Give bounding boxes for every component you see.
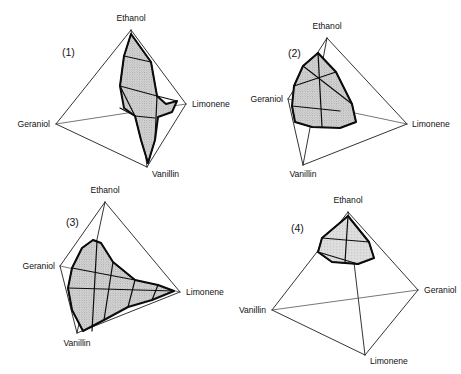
panel-2-vertex-label-limonene: Limonene xyxy=(412,119,450,129)
panel-4-edge-geraniol-limonene xyxy=(365,290,418,355)
panel-1-vertex-label-ethanol: Ethanol xyxy=(116,13,145,23)
panel-3-vertex-label-ethanol: Ethanol xyxy=(90,185,119,195)
panel-4-vertex-label-ethanol: Ethanol xyxy=(333,195,362,205)
panel-4-vertex-label-geraniol: Geraniol xyxy=(424,285,457,295)
panel-2-region-fill xyxy=(292,53,356,128)
tetrahedra-figure-canvas: (1) Ethanol Geraniol Limonene Vanillin xyxy=(0,0,461,374)
panel-2-vertex-label-geraniol: Geraniol xyxy=(251,94,284,104)
panel-1: (1) Ethanol Geraniol Limonene Vanillin xyxy=(18,13,230,179)
panel-4: (4) Ethanol Vanillin Geraniol Limonene xyxy=(239,195,457,366)
panel-3: (3) Ethanol Geraniol Limonene Vanillin xyxy=(23,185,224,348)
panel-4-vertex-label-limonene: Limonene xyxy=(370,356,408,366)
panel-3-number: (3) xyxy=(66,216,79,228)
panel-1-edge-ethanol-geraniol xyxy=(56,30,131,124)
panel-1-number: (1) xyxy=(62,46,75,58)
panel-2-number: (2) xyxy=(288,47,301,59)
panel-2-miscibility-region xyxy=(292,53,356,128)
panel-1-edge-geraniol-vanillin xyxy=(56,124,147,167)
panel-2: (2) Ethanol Geraniol Limonene Vanillin xyxy=(251,21,450,179)
panel-4-number: (4) xyxy=(291,222,304,234)
panel-1-vertex-label-vanillin: Vanillin xyxy=(152,169,179,179)
panel-3-vertex-label-geraniol: Geraniol xyxy=(23,261,56,271)
panel-2-vertex-label-vanillin: Vanillin xyxy=(289,169,316,179)
panel-2-edge-limonene-vanillin xyxy=(303,124,407,165)
figure-root: (1) Ethanol Geraniol Limonene Vanillin xyxy=(0,0,461,374)
panel-4-vertex-label-vanillin: Vanillin xyxy=(239,305,266,315)
panel-3-vertex-label-limonene: Limonene xyxy=(186,287,224,297)
panel-1-vertex-label-geraniol: Geraniol xyxy=(18,119,51,129)
panel-4-edge-vanillin-geraniol xyxy=(272,290,418,310)
panel-3-vertex-label-vanillin: Vanillin xyxy=(63,338,90,348)
panel-1-vertex-label-limonene: Limonene xyxy=(192,99,230,109)
panel-2-vertex-label-ethanol: Ethanol xyxy=(312,21,341,31)
panel-3-miscibility-region xyxy=(68,240,174,331)
panel-4-miscibility-region xyxy=(318,216,374,264)
panel-4-edge-vanillin-limonene xyxy=(272,310,365,355)
